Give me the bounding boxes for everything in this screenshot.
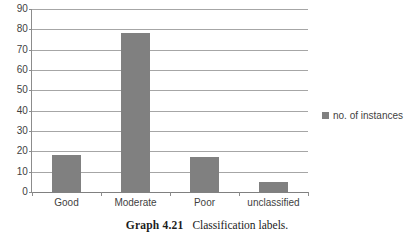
plot-area (32, 9, 308, 192)
y-tick-label: 10 (4, 167, 28, 177)
x-tick-mark (239, 192, 240, 196)
y-tick-label: 70 (4, 45, 28, 55)
y-tick-mark (29, 172, 32, 173)
x-tick-label: Poor (170, 196, 239, 212)
gridline (32, 111, 308, 112)
y-tick-label: 40 (4, 106, 28, 116)
y-tick-mark (29, 151, 32, 152)
y-tick-label: 20 (4, 146, 28, 156)
legend-swatch-icon (322, 112, 329, 119)
y-tick-mark (29, 111, 32, 112)
y-tick-label: 50 (4, 85, 28, 95)
y-tick-label: 60 (4, 65, 28, 75)
gridline (32, 9, 308, 10)
gridline (32, 50, 308, 51)
x-tick-mark (101, 192, 102, 196)
y-tick-mark (29, 131, 32, 132)
x-tick-mark (170, 192, 171, 196)
bar-good[interactable] (52, 155, 81, 192)
legend-label: no. of instances (333, 110, 403, 121)
y-tick-label: 30 (4, 126, 28, 136)
x-tick-label: Moderate (101, 196, 170, 212)
bar-moderate[interactable] (121, 33, 150, 192)
gridline (32, 90, 308, 91)
x-tick-mark (308, 192, 309, 196)
gridline (32, 70, 308, 71)
y-tick-label: 90 (4, 4, 28, 14)
x-axis-labels: GoodModeratePoorunclassified (32, 196, 308, 212)
y-tick-label: 0 (4, 187, 28, 197)
y-tick-mark (29, 50, 32, 51)
x-tick-label: unclassified (239, 196, 308, 212)
y-tick-mark (29, 90, 32, 91)
caption-number: Graph 4.21 (126, 219, 184, 231)
bar-poor[interactable] (190, 157, 219, 192)
figure-caption: Graph 4.21Classification labels. (0, 218, 414, 232)
gridline (32, 29, 308, 30)
y-tick-label: 80 (4, 24, 28, 34)
chart-legend: no. of instances (322, 110, 403, 121)
bar-unclassified[interactable] (259, 182, 288, 192)
caption-text: Classification labels. (192, 219, 288, 231)
figure-container: 0102030405060708090 GoodModeratePooruncl… (0, 0, 414, 241)
y-tick-mark (29, 9, 32, 10)
gridline (32, 131, 308, 132)
y-tick-mark (29, 70, 32, 71)
y-axis-labels: 0102030405060708090 (0, 0, 28, 241)
gridline (32, 151, 308, 152)
x-tick-mark (32, 192, 33, 196)
x-tick-label: Good (32, 196, 101, 212)
y-tick-mark (29, 29, 32, 30)
